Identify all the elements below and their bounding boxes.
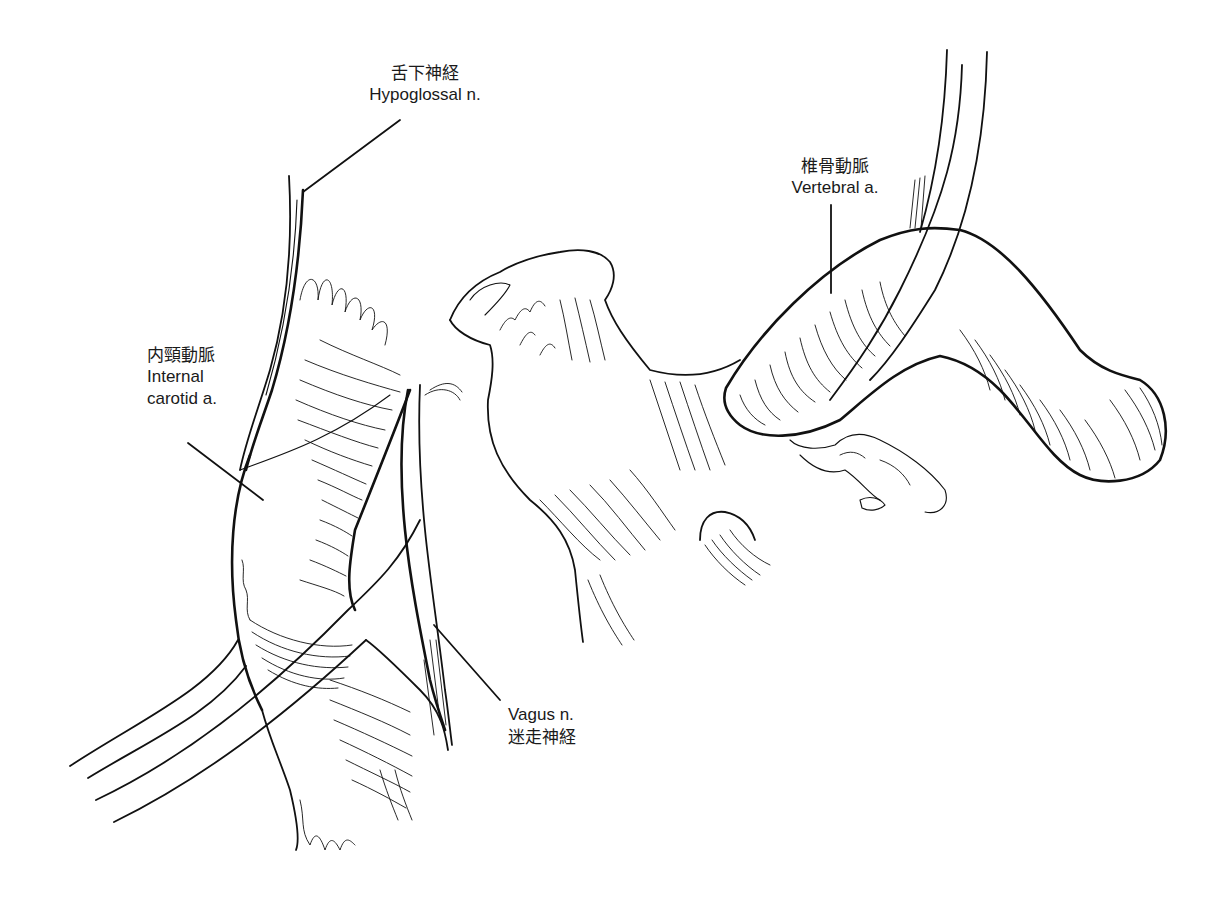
label-internal-carotid-ja: 内頸動脈 [147, 344, 217, 366]
label-vagus-en: Vagus n. [508, 704, 576, 726]
label-hypoglossal-ja: 舌下神経 [355, 62, 495, 84]
label-vertebral-en: Vertebral a. [775, 177, 895, 199]
anatomy-figure: 舌下神経 Hypoglossal n. 椎骨動脈 Vertebral a. 内頸… [0, 0, 1230, 907]
label-internal-carotid-en-1: Internal [147, 366, 217, 388]
lower-lobulated-structure-drawing [790, 435, 946, 513]
label-vertebral-artery: 椎骨動脈 Vertebral a. [775, 155, 895, 199]
anatomy-illustration [0, 0, 1230, 907]
label-internal-carotid-en-2: carotid a. [147, 388, 217, 410]
leader-lines [188, 120, 831, 700]
label-vertebral-ja: 椎骨動脈 [775, 155, 895, 177]
vertebral-artery-drawing [724, 50, 1165, 481]
label-vagus-nerve: Vagus n. 迷走神経 [508, 704, 576, 748]
hypoglossal-nerve-drawing [240, 176, 303, 470]
label-hypoglossal-en: Hypoglossal n. [355, 84, 495, 106]
label-internal-carotid-artery: 内頸動脈 Internal carotid a. [147, 344, 217, 410]
label-hypoglossal-nerve: 舌下神経 Hypoglossal n. [355, 62, 495, 106]
vagus-nerve-drawing [402, 383, 462, 745]
label-vagus-ja: 迷走神経 [508, 726, 576, 748]
internal-carotid-drawing [232, 279, 410, 710]
central-structure-drawing [450, 250, 770, 645]
